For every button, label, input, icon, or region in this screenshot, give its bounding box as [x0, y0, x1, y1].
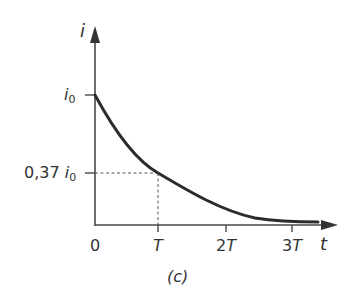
label-037i0-sub: 0 [69, 171, 76, 184]
tick-label-0: 0 [90, 237, 100, 255]
label-i0-sub: 0 [68, 93, 75, 106]
tick-label-2T: 2T [216, 237, 236, 255]
y-axis-label: i [80, 22, 85, 40]
tick-label-T: T [153, 237, 163, 255]
label-i0: i0 [64, 86, 75, 109]
tick-label-3T-var: T [292, 236, 302, 255]
figure-caption: (c) [167, 268, 188, 286]
tick-label-2T-var: T [226, 236, 236, 255]
label-037i0: 0,37 i0 [24, 164, 76, 187]
decay-curve [95, 95, 318, 222]
tick-label-3T: 3T [282, 237, 302, 255]
x-axis-label: t [320, 235, 327, 253]
y-axis-arrow-icon [90, 26, 100, 43]
decay-chart [0, 0, 354, 301]
tick-label-3T-num: 3 [282, 236, 292, 255]
x-axis-arrow-icon [321, 220, 338, 230]
label-037i0-prefix: 0,37 [24, 163, 65, 182]
tick-label-2T-num: 2 [216, 236, 226, 255]
